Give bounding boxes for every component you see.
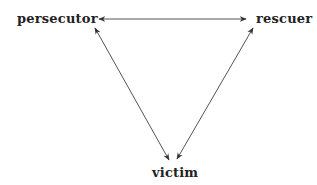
node-persecutor: persecutor <box>17 12 98 25</box>
node-rescuer: rescuer <box>256 12 312 25</box>
edge-persecutor-victim <box>95 28 169 160</box>
node-victim: victim <box>152 166 198 179</box>
arrows-layer <box>0 0 317 185</box>
edge-rescuer-victim <box>177 28 253 159</box>
